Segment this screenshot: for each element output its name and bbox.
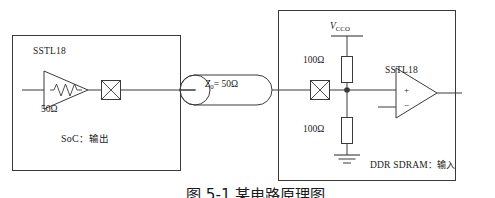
impedance-value: = 50Ω [214, 79, 238, 89]
figure-caption: 图 5-1 某电路原理图 [186, 188, 325, 198]
soc-caption-sep: ： [79, 133, 89, 144]
pulldown-resistor-label: 100Ω [303, 125, 324, 135]
pulldown-resistor-body [342, 118, 353, 144]
figure-root: SSTL18 50Ω SoC：输出 Z0= 50Ω VCCO 100Ω 100Ω… [0, 0, 495, 198]
soc-block-caption: SoC：输出 [61, 134, 109, 144]
pullup-resistor-body [342, 57, 353, 83]
ddr-block-border [279, 11, 456, 181]
receiver-minus-input-label: − [404, 101, 409, 110]
soc-pad-cross [102, 81, 121, 100]
vcco-supply-label: VCCO [330, 22, 350, 32]
series-resistor-label: 50Ω [41, 105, 58, 115]
receiver-plus-input-label: + [404, 86, 409, 95]
transmission-line-impedance-label: Z0= 50Ω [205, 80, 238, 90]
soc-caption-value: 输出 [89, 133, 109, 144]
ddr-pad-cross [311, 81, 330, 100]
vcco-subscript: CCO [336, 25, 350, 32]
ddr-receiver-label: SSTL18 [385, 66, 418, 76]
sstl18-receiver-triangle [396, 68, 437, 118]
pullup-resistor-label: 100Ω [303, 56, 324, 66]
ddr-block-caption: DDR SDRAM：输入 [370, 161, 456, 171]
ddr-caption-prefix: DDR SDRAM [370, 160, 428, 170]
soc-caption-prefix: SoC [61, 133, 79, 144]
ddr-caption-value: 输入 [437, 160, 455, 170]
soc-driver-label: SSTL18 [33, 47, 66, 57]
ddr-caption-sep: ： [428, 160, 437, 170]
